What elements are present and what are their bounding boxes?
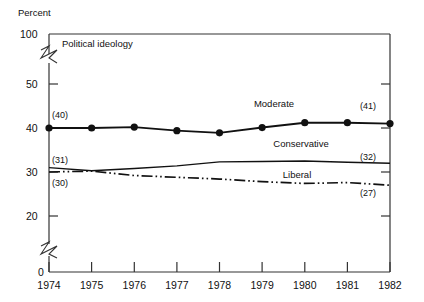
x-tick-label-1974: 1974 [37, 279, 61, 291]
data-point-moderate-1982 [386, 120, 393, 127]
value-label-moderate-start: (40) [52, 110, 68, 120]
data-point-moderate-1976 [131, 124, 138, 131]
series-layer [45, 119, 393, 185]
data-point-moderate-1975 [88, 124, 95, 131]
series-line-liberal [49, 171, 390, 185]
chart-container: Percent 100 50 [0, 0, 424, 302]
x-tick-label-1977: 1977 [165, 279, 189, 291]
y-axis-label: Percent [18, 7, 51, 18]
x-tick-label-1978: 1978 [208, 279, 232, 291]
x-tick-label-1975: 1975 [80, 279, 104, 291]
value-label-moderate-end: (41) [360, 101, 376, 111]
data-point-moderate-1978 [216, 129, 223, 136]
political-ideology-line-chart: Percent 100 50 [0, 0, 424, 302]
x-axis-ticks: 1974 1975 1976 1977 1978 1979 1980 1981 … [37, 262, 402, 291]
data-point-moderate-1980 [301, 119, 308, 126]
series-label-liberal: Liberal [283, 169, 312, 180]
y-tick-label-50: 50 [26, 78, 38, 90]
plot-frame [41, 34, 390, 272]
data-point-moderate-1977 [173, 127, 180, 134]
data-point-moderate-1974 [45, 124, 52, 131]
x-tick-label-1980: 1980 [293, 279, 317, 291]
y-axis-ticks: 100 50 40 30 20 0 [20, 28, 58, 278]
y-tick-label-100: 100 [20, 28, 38, 40]
data-point-moderate-1979 [259, 124, 266, 131]
value-label-conservative-start: (31) [52, 155, 68, 165]
y-tick-label-20: 20 [26, 210, 38, 222]
series-line-conservative [49, 161, 390, 171]
axis-break-lower-icon [41, 242, 57, 258]
series-label-conservative: Conservative [273, 138, 328, 149]
y-tick-label-40: 40 [26, 122, 38, 134]
y-tick-label-30: 30 [26, 166, 38, 178]
x-tick-label-1976: 1976 [123, 279, 147, 291]
value-label-conservative-end: (32) [360, 152, 376, 162]
data-point-moderate-1981 [344, 119, 351, 126]
plot-title: Political ideology [62, 38, 133, 49]
x-tick-label-1979: 1979 [250, 279, 274, 291]
right-axis-ticks [381, 84, 390, 216]
series-label-moderate: Moderate [254, 98, 294, 109]
y-tick-label-0: 0 [38, 266, 44, 278]
value-label-liberal-end: (27) [360, 188, 376, 198]
x-tick-label-1981: 1981 [336, 279, 360, 291]
value-label-liberal-start: (30) [52, 178, 68, 188]
x-tick-label-1982: 1982 [378, 279, 402, 291]
